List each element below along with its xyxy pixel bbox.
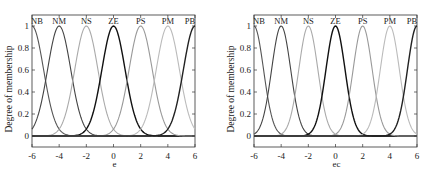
membership-chart-e: NBNMNSZEPSPMPB-6-4-2024600.20.40.60.81eD… xyxy=(0,0,214,176)
x-tick-label: -4 xyxy=(277,151,285,161)
y-tick-label: 0.6 xyxy=(240,65,252,75)
y-tick-label: 1 xyxy=(247,21,252,31)
curve-label-nb: NB xyxy=(31,16,43,26)
x-tick-label: 6 xyxy=(415,151,420,161)
y-tick-label: 0.8 xyxy=(18,43,30,53)
x-tick-label: 2 xyxy=(360,151,365,161)
chart-panel-e: NBNMNSZEPSPMPB-6-4-2024600.20.40.60.81eD… xyxy=(0,0,214,176)
y-tick-label: 0.4 xyxy=(240,87,252,97)
x-tick-label: -6 xyxy=(250,151,258,161)
x-tick-label: -4 xyxy=(55,151,63,161)
curve-label-pb: PB xyxy=(407,16,418,26)
y-axis-label: Degree of membership xyxy=(4,45,14,132)
curve-label-nb: NB xyxy=(253,16,265,26)
y-tick-label: 1 xyxy=(25,21,30,31)
x-tick-label: -6 xyxy=(28,151,36,161)
x-tick-label: -2 xyxy=(83,151,91,161)
x-tick-label: 6 xyxy=(193,151,198,161)
y-tick-label: 0.6 xyxy=(18,65,30,75)
plot-area xyxy=(32,15,195,147)
y-axis-label: Degree of membership xyxy=(226,45,236,132)
y-tick-label: 0 xyxy=(25,131,30,141)
curve-label-pb: PB xyxy=(185,16,196,26)
x-tick-label: 2 xyxy=(138,151,143,161)
x-tick-label: 4 xyxy=(166,151,171,161)
y-tick-label: 0.2 xyxy=(18,109,29,119)
plot-area xyxy=(254,15,417,147)
x-tick-label: 4 xyxy=(388,151,393,161)
y-tick-label: 0.2 xyxy=(240,109,251,119)
membership-chart-ec: NBNMNSZEPSPMPB-6-4-2024600.20.40.60.81ec… xyxy=(222,0,428,176)
y-tick-label: 0.8 xyxy=(240,43,252,53)
x-tick-label: -2 xyxy=(305,151,313,161)
x-axis-label: e xyxy=(113,159,117,169)
y-tick-label: 0.4 xyxy=(18,87,30,97)
x-axis-label: ec xyxy=(333,159,341,169)
y-tick-label: 0 xyxy=(247,131,252,141)
chart-panel-ec: NBNMNSZEPSPMPB-6-4-2024600.20.40.60.81ec… xyxy=(222,0,428,176)
